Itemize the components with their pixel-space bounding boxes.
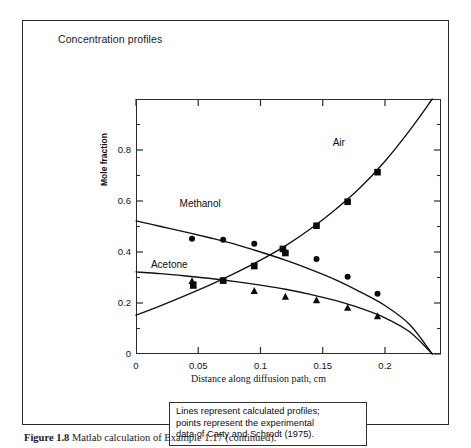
data-point-triangle (251, 287, 258, 294)
data-point-triangle (313, 296, 320, 303)
data-point-square (374, 169, 381, 176)
data-point-square (190, 281, 197, 288)
y-tick-label: 0.2 (97, 297, 131, 308)
data-point-triangle (282, 293, 289, 300)
plot-area: 00.050.10.150.200.20.40.60.8MethanolAcet… (136, 99, 441, 354)
x-tick-label: 0.1 (240, 360, 280, 371)
data-point-square (313, 222, 320, 229)
data-point-circle (375, 291, 381, 297)
plot-svg (136, 99, 441, 354)
data-point-circle (220, 237, 226, 243)
series-label-acetone: Acetone (151, 259, 188, 270)
figure-border: Concentration profiles Mole fraction 00.… (22, 20, 449, 425)
series-label-methanol: Methanol (180, 198, 221, 209)
data-point-circle (189, 236, 195, 242)
data-point-circle (314, 256, 320, 262)
y-axis-label: Mole fraction (99, 96, 109, 186)
figure-caption: Figure 1.8 Matlab calculation of Example… (24, 432, 464, 443)
x-tick-label: 0.2 (365, 360, 405, 371)
data-point-square (344, 198, 351, 205)
series-label-air: Air (333, 137, 345, 148)
x-tick-label: 0.05 (178, 360, 218, 371)
x-tick-label: 0.15 (303, 360, 343, 371)
series-points-acetone (188, 277, 381, 320)
data-point-circle (345, 274, 351, 280)
series-line-methanol (136, 221, 432, 354)
annotation-line-1: Lines represent calculated profiles; (176, 406, 360, 418)
y-tick-label: 0 (97, 348, 131, 359)
y-tick-label: 0.6 (97, 195, 131, 206)
y-tick-label: 0.4 (97, 246, 131, 257)
chart-title: Concentration profiles (58, 33, 162, 45)
series-line-acetone (136, 272, 432, 354)
figure-caption-number: Figure 1.8 (24, 432, 69, 443)
data-point-square (251, 263, 258, 270)
series-points-air (190, 169, 381, 288)
data-point-square (282, 250, 289, 257)
annotation-line-2: points represent the experimental (176, 418, 360, 430)
x-tick-label: 0 (116, 360, 156, 371)
figure-caption-text: Matlab calculation of Example 1.17 (cont… (69, 432, 276, 443)
x-axis-label: Distance along diffusion path, cm (23, 373, 471, 384)
data-point-square (220, 277, 227, 284)
data-point-circle (251, 241, 257, 247)
y-tick-label: 0.8 (97, 144, 131, 155)
